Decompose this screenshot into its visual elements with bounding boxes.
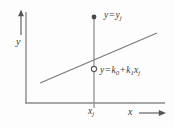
y-axis-arrow-icon	[18, 10, 24, 36]
fitted-value-label: y=k0+k1xj	[100, 66, 140, 76]
x-tick-label-sub: j	[92, 110, 94, 117]
x-axis-label: x	[128, 107, 132, 117]
fitted-term2-var-sub: j	[138, 69, 140, 76]
regression-figure: y x xj y=yj y=k0+k1xj	[0, 0, 174, 127]
regression-line	[40, 33, 157, 83]
y-axis-label: y	[16, 37, 20, 47]
fitted-point-marker	[91, 66, 96, 71]
observed-rhs-sub: j	[120, 14, 122, 21]
observed-point-marker	[92, 15, 97, 20]
figure-canvas	[0, 0, 174, 127]
observed-value-label: y=yj	[104, 11, 122, 21]
x-axis-arrow-icon	[139, 110, 166, 116]
x-tick-label: xj	[88, 107, 94, 117]
